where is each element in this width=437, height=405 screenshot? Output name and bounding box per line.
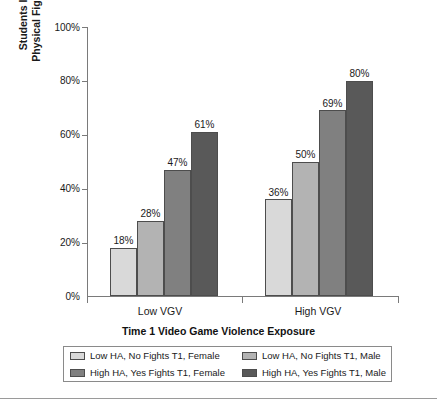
bar-value-label: 69%: [316, 98, 349, 109]
bar-value-label: 18%: [107, 235, 140, 246]
bar-group-high-vgv-series-3: 69%: [319, 27, 346, 296]
bar-chart-figure: Students Involved in Physical Fights at …: [0, 0, 437, 405]
plot-area: 18% 28% 47% 61% 36% 50% 69% 80%: [87, 27, 399, 296]
bar-value-label: 80%: [343, 68, 376, 79]
bar-high-vgv-male-high-ha: [346, 81, 373, 296]
legend-swatch-icon-series-4: [242, 369, 257, 377]
x-tick-mark-middle: [242, 297, 243, 303]
bar-value-label: 50%: [289, 149, 322, 160]
x-tick-mark-right: [398, 297, 399, 303]
bar-low-vgv-male-low-ha: [137, 221, 164, 296]
bar-group-low-vgv-series-3: 47%: [164, 27, 191, 296]
bar-low-vgv-male-high-ha: [191, 132, 218, 296]
x-axis-line: [87, 296, 399, 297]
legend-swatch-icon-series-1: [70, 352, 85, 360]
bar-low-vgv-female-low-ha: [110, 248, 137, 296]
legend-label: Low HA, No Fights T1, Male: [262, 350, 381, 361]
legend-label: High HA, Yes Fights T1, Male: [262, 367, 386, 378]
bar-value-label: 36%: [262, 187, 295, 198]
bar-group-low-vgv-series-4: 61%: [191, 27, 218, 296]
legend-swatch-icon-series-2: [242, 352, 257, 360]
y-tick-label-0: 0%: [34, 292, 80, 302]
chart-legend: Low HA, No Fights T1, Female Low HA, No …: [63, 346, 392, 382]
bar-group-low-vgv-series-1: 18%: [110, 27, 137, 296]
y-tick-label-20: 20%: [34, 238, 80, 248]
bar-value-label: 61%: [188, 119, 221, 130]
bar-high-vgv-female-low-ha: [265, 199, 292, 296]
y-axis-tick-labels: 100% 80% 60% 40% 20% 0%: [34, 0, 80, 405]
legend-label: Low HA, No Fights T1, Female: [90, 350, 220, 361]
bar-group-high-vgv-series-4: 80%: [346, 27, 373, 296]
y-tick-label-100: 100%: [34, 23, 80, 33]
y-tick-label-40: 40%: [34, 184, 80, 194]
x-category-label-low-vgv: Low VGV: [120, 305, 200, 317]
bar-low-vgv-female-high-ha: [164, 170, 191, 296]
x-axis-title: Time 1 Video Game Violence Exposure: [0, 325, 437, 337]
legend-item-low-ha-no-fights-female: Low HA, No Fights T1, Female: [70, 347, 242, 364]
bar-group-low-vgv-series-2: 28%: [137, 27, 164, 296]
y-tick-label-60: 60%: [34, 130, 80, 140]
bar-group-high-vgv-series-1: 36%: [265, 27, 292, 296]
page-divider-rule: [0, 398, 437, 399]
bar-high-vgv-female-high-ha: [319, 110, 346, 296]
bar-value-label: 47%: [161, 157, 194, 168]
bar-value-label: 28%: [134, 208, 167, 219]
y-tick-label-80: 80%: [34, 76, 80, 86]
legend-swatch-icon-series-3: [70, 369, 85, 377]
y-axis-title-line-1: Students Involved in: [17, 0, 30, 50]
bar-group-high-vgv-series-2: 50%: [292, 27, 319, 296]
legend-label: High HA, Yes Fights T1, Female: [90, 367, 225, 378]
x-tick-mark-left: [87, 297, 88, 303]
bar-high-vgv-male-low-ha: [292, 162, 319, 297]
legend-item-low-ha-no-fights-male: Low HA, No Fights T1, Male: [242, 347, 399, 364]
legend-item-high-ha-yes-fights-male: High HA, Yes Fights T1, Male: [242, 364, 399, 381]
x-category-label-high-vgv: High VGV: [278, 305, 358, 317]
legend-item-high-ha-yes-fights-female: High HA, Yes Fights T1, Female: [70, 364, 242, 381]
